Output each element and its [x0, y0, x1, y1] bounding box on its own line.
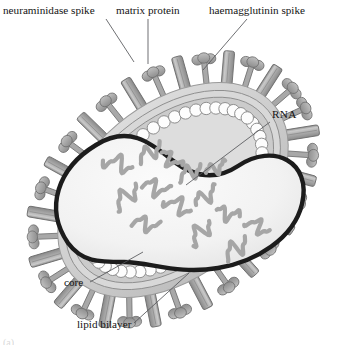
- influenza-virus-diagram: neuraminidase spikematrix proteinhaemagg…: [0, 0, 347, 345]
- virus-figure-svg: neuraminidase spikematrix proteinhaemagg…: [0, 0, 347, 345]
- label-core: core: [64, 276, 83, 288]
- label-matrix-protein: matrix protein: [116, 4, 180, 16]
- label-lipid-bilayer: lipid bilayer: [77, 318, 132, 330]
- figure-corner-mark: (a): [3, 338, 14, 345]
- label-neuraminidase-spike: neuraminidase spike: [3, 4, 95, 16]
- label-haemagglutinin-spike: haemagglutinin spike: [209, 4, 305, 16]
- label-rna: RNA: [272, 108, 297, 120]
- matrix-protein-bead: [241, 112, 253, 124]
